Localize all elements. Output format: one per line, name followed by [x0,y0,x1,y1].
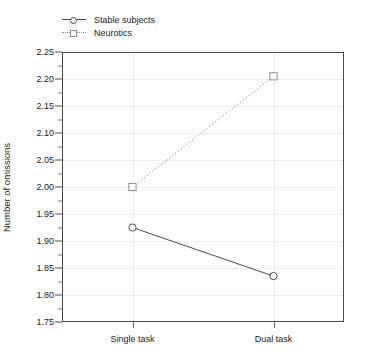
y-axis-major-tick [55,106,62,107]
y-axis-tick-label: 1.80 [36,291,54,300]
x-axis-tick-labels: Single taskDual task [62,333,344,347]
y-axis-title-text: Number of omissions [2,142,13,231]
y-axis-major-tick [55,241,62,242]
legend-item-neurotics: Neurotics [62,26,262,39]
y-axis-tick-label: 2.15 [36,102,54,111]
y-axis-tick-label: 1.95 [36,210,54,219]
x-axis-major-tick [133,322,134,328]
series-line-neurotics [133,76,274,187]
y-axis-tick-marks [54,52,62,322]
chart-series-layer [62,52,344,322]
y-axis-major-tick [55,295,62,296]
y-axis-major-tick [55,322,62,323]
legend-item-stable-subjects: Stable subjects [62,13,262,26]
y-axis-tick-label: 1.75 [36,318,54,327]
y-axis-tick-label: 1.85 [36,264,54,273]
y-axis-tick-label: 1.90 [36,237,54,246]
x-axis-tick-marks [62,322,344,330]
y-axis-tick-label: 2.20 [36,75,54,84]
y-axis-major-tick [55,268,62,269]
y-axis-tick-labels: 2.252.202.152.102.052.001.951.901.851.80… [18,52,54,322]
y-axis-major-tick [55,187,62,188]
y-axis-tick-label: 2.00 [36,183,54,192]
series-line-stable-subjects [133,228,274,277]
y-axis-tick-label: 2.05 [36,156,54,165]
data-point-marker [270,73,277,80]
y-axis-major-tick [55,160,62,161]
legend-square-marker-icon [62,27,86,39]
x-axis-major-tick [274,322,275,328]
chart-legend: Stable subjects Neurotics [62,13,262,39]
y-axis-major-tick [55,133,62,134]
y-axis-major-tick [55,52,62,53]
data-point-marker [129,183,136,190]
data-point-marker [270,273,277,280]
x-axis-tick-label: Single task [110,333,154,345]
y-axis-tick-label: 2.10 [36,129,54,138]
x-axis-tick-label: Dual task [255,333,293,345]
y-axis-tick-label: 2.25 [36,48,54,57]
legend-circle-marker-icon [62,14,86,26]
data-point-marker [129,224,136,231]
y-axis-major-tick [55,79,62,80]
y-axis-title: Number of omissions [0,52,14,322]
legend-label-stable-subjects: Stable subjects [94,14,155,26]
y-axis-major-tick [55,214,62,215]
legend-label-neurotics: Neurotics [94,27,132,39]
